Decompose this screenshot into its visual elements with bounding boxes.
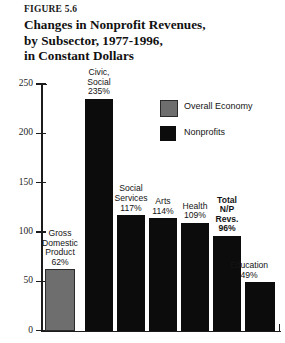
x-axis-right-cap	[279, 324, 280, 331]
bar-label-education: Education49%	[216, 261, 282, 280]
bar-label-civic-social: Civic,Social235%	[66, 68, 132, 97]
bar-label-line: 49%	[216, 271, 282, 281]
figure-title: Changes in Nonprofit Revenues, by Subsec…	[24, 17, 282, 64]
bar-education[interactable]	[245, 282, 275, 330]
bar-label-line: 96%	[194, 224, 260, 234]
figure-container: FIGURE 5.6 Changes in Nonprofit Revenues…	[0, 0, 285, 343]
y-axis-tick-200	[36, 133, 46, 134]
x-axis-line	[41, 331, 281, 333]
y-axis-tick-label-0: 0	[0, 325, 33, 335]
bar-label-line: 235%	[66, 87, 132, 97]
y-axis-tick-label-50: 50	[0, 275, 33, 285]
figure-title-line-2: by Subsector, 1977-1996,	[24, 33, 282, 49]
bar-gross-domestic-product[interactable]	[45, 269, 75, 330]
bar-civic-social[interactable]	[85, 99, 113, 331]
bar-arts[interactable]	[149, 218, 177, 330]
bar-label-gross-domestic-product: GrossDomesticProduct62%	[27, 229, 93, 267]
y-axis-tick-150	[36, 182, 46, 183]
bar-health[interactable]	[181, 223, 209, 331]
legend-label-overall-economy: Overall Economy	[184, 101, 253, 111]
legend-swatch-nonprofits	[160, 126, 176, 141]
y-axis-tick-label-250: 250	[0, 78, 33, 88]
figure-number: FIGURE 5.6	[24, 4, 77, 14]
y-axis-tick-label-150: 150	[0, 177, 33, 187]
y-axis-tick-250	[36, 83, 46, 84]
bar-total-np-revs[interactable]	[213, 236, 241, 331]
y-axis-line	[41, 84, 43, 332]
figure-title-line-1: Changes in Nonprofit Revenues,	[24, 17, 282, 33]
bar-social-services[interactable]	[117, 215, 145, 330]
figure-title-line-3: in Constant Dollars	[24, 48, 282, 64]
bar-label-total-np-revs: TotalN/PRevs.96%	[194, 196, 260, 234]
legend-swatch-overall-economy	[160, 100, 178, 117]
bar-label-line: 62%	[27, 258, 93, 268]
y-axis-tick-label-200: 200	[0, 127, 33, 137]
legend-label-nonprofits: Nonprofits	[184, 127, 225, 137]
